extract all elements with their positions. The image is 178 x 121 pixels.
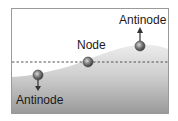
antinode-label-top: Antinode — [119, 14, 166, 26]
antinode-ball-bottom — [33, 70, 43, 80]
antinode-label-bottom: Antinode — [16, 94, 63, 106]
node-label: Node — [77, 39, 106, 51]
node-ball — [83, 57, 93, 67]
antinode-ball-top — [135, 41, 145, 51]
